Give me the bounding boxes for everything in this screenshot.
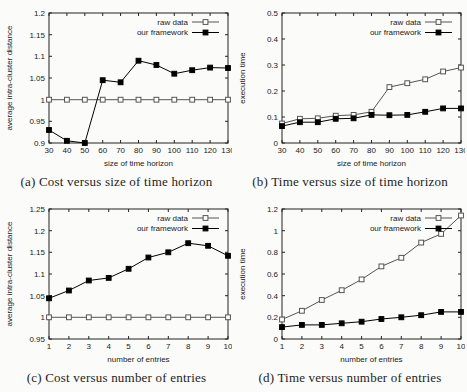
- open-square-marker: [146, 315, 151, 320]
- y-tick-label: 0.95: [29, 335, 45, 344]
- filled-square-marker: [207, 65, 212, 70]
- legend-label: our framework: [370, 224, 422, 233]
- x-tick-label: 8: [419, 342, 424, 351]
- x-tick-label: 4: [106, 342, 111, 351]
- legend-filled-square-marker: [203, 30, 208, 35]
- x-tick-label: 4: [339, 342, 344, 351]
- x-tick-label: 130: [454, 146, 465, 155]
- x-tick-label: 90: [385, 146, 394, 155]
- y-tick-label: 1.25: [29, 205, 45, 214]
- x-tick-label: 5: [126, 342, 131, 351]
- filled-square-marker: [459, 106, 464, 111]
- legend-filled-square-marker: [203, 226, 208, 231]
- chart-d: 1234567891000.20.40.60.811.2number of en…: [233, 196, 467, 392]
- legend-filled-square-marker: [436, 30, 441, 35]
- legend-label: raw data: [157, 214, 188, 223]
- filled-square-marker: [154, 63, 159, 68]
- chart-a-caption: (a) Cost versus size of time horizon: [20, 174, 212, 190]
- y-axis-label: execution time: [238, 52, 247, 104]
- open-square-marker: [280, 317, 285, 322]
- y-tick-label: 1.15: [29, 31, 45, 40]
- x-tick-label: 70: [349, 146, 358, 155]
- open-square-marker: [359, 277, 364, 282]
- y-axis-label: execution time: [238, 248, 247, 300]
- x-tick-label: 110: [185, 146, 198, 155]
- x-axis-label: size of time horizon: [104, 159, 173, 168]
- open-square-marker: [459, 65, 464, 70]
- x-tick-label: 1: [280, 342, 285, 351]
- open-square-marker: [225, 315, 230, 320]
- open-square-marker: [439, 232, 444, 237]
- y-tick-label: 0: [274, 335, 279, 344]
- x-tick-label: 90: [151, 146, 160, 155]
- open-square-marker: [64, 97, 69, 102]
- legend-label: raw data: [390, 214, 421, 223]
- filled-square-marker: [379, 317, 384, 322]
- filled-square-marker: [280, 124, 285, 129]
- x-tick-label: 3: [86, 342, 91, 351]
- x-tick-label: 6: [146, 342, 151, 351]
- x-tick-label: 70: [116, 146, 125, 155]
- filled-square-marker: [225, 66, 230, 71]
- filled-square-marker: [165, 250, 170, 255]
- chart-c-caption: (c) Cost versus number of entries: [27, 370, 207, 386]
- filled-square-marker: [369, 113, 374, 118]
- y-tick-label: 1: [40, 313, 45, 322]
- x-tick-label: 130: [221, 146, 232, 155]
- filled-square-marker: [419, 313, 424, 318]
- filled-square-marker: [359, 319, 364, 324]
- x-tick-label: 9: [439, 342, 444, 351]
- figure-grid: 304050607080901001101201300.90.9511.051.…: [0, 0, 467, 392]
- x-tick-label: 10: [223, 342, 231, 351]
- filled-square-marker: [441, 106, 446, 111]
- filled-square-marker: [46, 296, 51, 301]
- chart-b-caption: (b) Time versus size of time horizon: [252, 174, 448, 190]
- x-tick-label: 7: [399, 342, 404, 351]
- y-tick-label: 1.2: [33, 9, 45, 18]
- chart-a-canvas: 304050607080901001101201300.90.9511.051.…: [2, 5, 232, 173]
- x-tick-label: 7: [166, 342, 171, 351]
- chart-d-canvas: 1234567891000.20.40.60.811.2number of en…: [235, 201, 465, 369]
- x-tick-label: 3: [320, 342, 325, 351]
- open-square-marker: [419, 240, 424, 245]
- y-tick-label: 0: [274, 139, 279, 148]
- filled-square-marker: [106, 276, 111, 281]
- filled-square-marker: [82, 141, 87, 146]
- filled-square-marker: [185, 241, 190, 246]
- legend-label: our framework: [136, 224, 188, 233]
- y-tick-label: 1.2: [267, 205, 279, 214]
- filled-square-marker: [118, 80, 123, 85]
- x-tick-label: 60: [331, 146, 340, 155]
- x-tick-label: 10: [457, 342, 465, 351]
- chart-b: 3040506070809010011012013000.10.20.30.40…: [233, 0, 467, 196]
- open-square-marker: [319, 298, 324, 303]
- y-tick-label: 1.2: [33, 227, 45, 236]
- x-tick-label: 120: [436, 146, 450, 155]
- open-square-marker: [136, 97, 141, 102]
- filled-square-marker: [351, 116, 356, 121]
- open-square-marker: [118, 97, 123, 102]
- y-tick-label: 0.3: [267, 61, 279, 70]
- x-tick-label: 1: [46, 342, 51, 351]
- legend-filled-square-marker: [436, 226, 441, 231]
- filled-square-marker: [319, 323, 324, 328]
- y-tick-label: 1: [274, 227, 279, 236]
- filled-square-marker: [399, 315, 404, 320]
- x-tick-label: 5: [359, 342, 364, 351]
- x-tick-label: 110: [419, 146, 432, 155]
- open-square-marker: [154, 97, 159, 102]
- filled-square-marker: [459, 310, 464, 315]
- open-square-marker: [423, 77, 428, 82]
- filled-square-marker: [439, 310, 444, 315]
- y-tick-label: 0.6: [267, 270, 279, 279]
- x-tick-label: 2: [300, 342, 305, 351]
- open-square-marker: [82, 97, 87, 102]
- x-axis-label: number of entries: [340, 355, 402, 364]
- y-tick-label: 0.5: [267, 9, 279, 18]
- filled-square-marker: [225, 253, 230, 258]
- x-tick-label: 50: [80, 146, 89, 155]
- series-line-our-framework: [49, 243, 228, 298]
- filled-square-marker: [423, 109, 428, 114]
- y-tick-label: 0.9: [33, 139, 45, 148]
- legend-open-square-marker: [436, 20, 441, 25]
